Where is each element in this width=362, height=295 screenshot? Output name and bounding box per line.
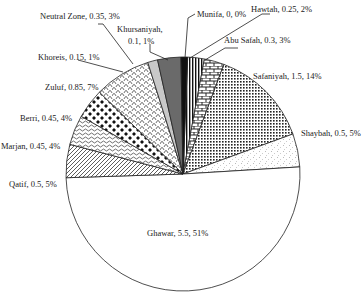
label-khursaniyah-line1: Khursaniyah, [117,24,163,34]
label-shaybah: Shaybah, 0.5, 5% [301,128,361,138]
label-hawtah: Hawtah, 0.25, 2% [251,4,312,14]
pie-chart: Munifa, 0, 0% Hawtah, 0.25, 2% Abu Safah… [0,0,362,295]
label-khoreis: Khoreis, 0.15, 1% [38,52,100,62]
label-zuluf: Zuluf, 0.85, 7% [45,82,99,92]
label-qatif: Qatif, 0.5, 5% [9,179,57,189]
label-ghawar: Ghawar, 5.5, 51% [147,228,208,238]
label-khursaniyah-line2: 0.1, 1% [128,36,154,46]
label-marjan: Marjan, 0.45, 4% [1,141,60,151]
label-berri: Berri, 0.45, 4% [20,113,72,123]
label-munifa: Munifa, 0, 0% [197,9,246,19]
label-neutral-zone: Neutral Zone, 0.35, 3% [40,11,120,21]
label-safaniyah: Safaniyah, 1.5, 14% [253,71,322,81]
label-abu-safah: Abu Safah, 0.3, 3% [224,35,291,45]
pie-slices [66,57,300,291]
